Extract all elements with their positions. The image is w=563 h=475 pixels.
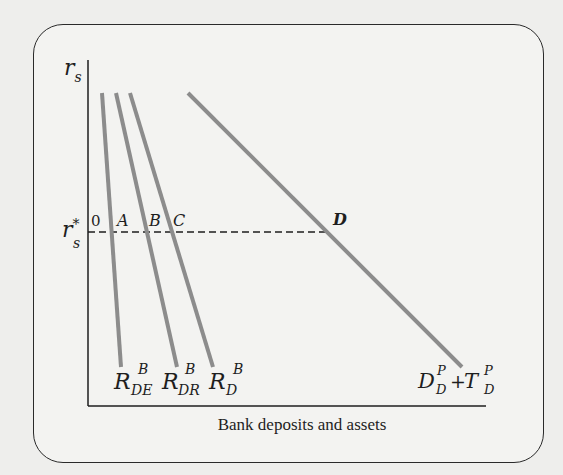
curve-r-d-sub: D bbox=[226, 383, 237, 397]
curve-supply-d-sup: P bbox=[437, 364, 446, 377]
curve-r-d bbox=[130, 93, 213, 367]
x-axis-label: Bank deposits and assets bbox=[152, 415, 452, 435]
curve-r-de bbox=[102, 93, 121, 367]
curve-supply-t: T bbox=[464, 371, 478, 392]
point-b-label: B bbox=[149, 213, 161, 229]
y-axis-label: rs bbox=[64, 57, 82, 79]
curve-supply-d: D bbox=[418, 371, 435, 392]
point-a-label: A bbox=[117, 213, 129, 229]
curve-r-dr-label: R bbox=[162, 371, 179, 393]
curve-r-dr bbox=[116, 93, 177, 367]
point-zero-label: 0 bbox=[91, 214, 101, 229]
curve-r-dr-sub: DR bbox=[178, 383, 200, 397]
curve-supply-t-sup: P bbox=[484, 364, 493, 377]
rs-star-label-sub: s bbox=[73, 236, 80, 250]
curve-r-de-sub: DE bbox=[131, 383, 152, 397]
diagram-canvas bbox=[0, 0, 563, 475]
point-c-label: C bbox=[173, 213, 185, 229]
curve-deposit-supply bbox=[188, 93, 462, 367]
curve-r-d-label: R bbox=[209, 371, 226, 393]
curve-supply-t-sub: D bbox=[484, 383, 494, 396]
curve-r-de-sup: B bbox=[138, 362, 148, 376]
curve-supply-d-sub: D bbox=[436, 383, 446, 396]
point-d-label: D bbox=[333, 212, 347, 228]
curve-r-de-label: R bbox=[114, 371, 131, 393]
curve-r-dr-sup: B bbox=[185, 362, 195, 376]
curve-r-d-sup: B bbox=[233, 362, 243, 376]
